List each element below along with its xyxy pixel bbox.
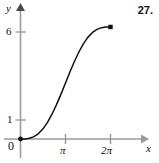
x-axis-label: x <box>146 143 151 154</box>
curve-path <box>21 27 111 139</box>
y-tick-label-6: 6 <box>6 26 12 37</box>
figure-container: y x 0 6 1 π 2π 27. <box>0 0 159 163</box>
x-tick-label-2pi: 2π <box>101 145 112 156</box>
y-axis-label: y <box>6 3 11 14</box>
y-axis-arrowhead-icon <box>16 3 25 11</box>
curve-end-point <box>108 25 112 29</box>
curve-start-point <box>18 137 23 142</box>
x-tick-label-pi: π <box>60 145 66 156</box>
origin-label: 0 <box>8 140 14 152</box>
y-tick-label-1: 1 <box>7 114 13 125</box>
problem-number: 27. <box>138 5 153 16</box>
graph-canvas <box>0 0 159 163</box>
